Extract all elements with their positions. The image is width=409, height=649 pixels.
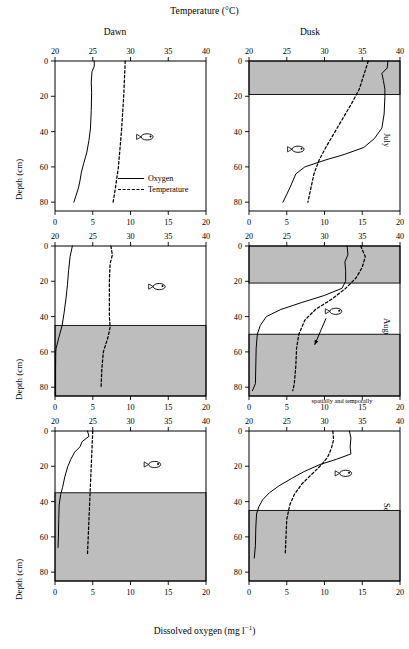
tick-label-oxygen: 15 bbox=[164, 403, 172, 412]
fish-icon bbox=[325, 308, 342, 314]
tick-label-depth: 20 bbox=[234, 462, 242, 471]
tick-label-temperature: 40 bbox=[396, 47, 404, 56]
tick-label-temperature: 30 bbox=[126, 47, 134, 56]
tick-label-temperature: 25 bbox=[283, 417, 291, 426]
tick-label-temperature: 25 bbox=[283, 47, 291, 56]
tick-label-oxygen: 0 bbox=[53, 588, 57, 597]
fish-tail-icon bbox=[137, 134, 142, 139]
tick-label-oxygen: 15 bbox=[358, 588, 366, 597]
tick-label-depth: 60 bbox=[234, 533, 242, 542]
fish-eye-icon bbox=[150, 135, 152, 137]
tick-label-oxygen: 0 bbox=[53, 218, 57, 227]
tick-label-oxygen: 15 bbox=[164, 588, 172, 597]
tick-label-depth: 0 bbox=[238, 57, 242, 66]
tick-label-depth: 0 bbox=[238, 242, 242, 251]
tick-label-depth: 40 bbox=[234, 313, 242, 322]
fish-icon bbox=[137, 134, 154, 140]
fish-tail-icon bbox=[325, 309, 330, 314]
tick-label-oxygen: 20 bbox=[202, 588, 210, 597]
tick-label-oxygen: 5 bbox=[91, 218, 95, 227]
tick-label-depth: 80 bbox=[234, 383, 242, 392]
tick-label-depth: 80 bbox=[234, 198, 242, 207]
fish-eye-icon bbox=[162, 285, 164, 287]
tick-label-oxygen: 5 bbox=[285, 588, 289, 597]
fish-eye-icon bbox=[338, 310, 340, 312]
plot-layer: 2025303540051015200204060802025303540051… bbox=[0, 0, 409, 649]
tick-label-depth: 0 bbox=[44, 57, 48, 66]
fish-icon bbox=[335, 470, 352, 476]
tick-label-oxygen: 10 bbox=[320, 588, 328, 597]
fish-icon bbox=[144, 461, 161, 467]
panel-july-dawn: 202530354005101520020406080 bbox=[40, 47, 210, 227]
panel-september-dusk: 202530354005101520020406080 bbox=[234, 417, 404, 597]
panel-july-dusk: 202530354005101520020406080 bbox=[234, 47, 404, 227]
tick-label-temperature: 20 bbox=[245, 232, 253, 241]
tick-label-oxygen: 20 bbox=[202, 403, 210, 412]
figure-root: Temperature (°C) Dawn Dusk Depth (cm) De… bbox=[0, 0, 409, 649]
tick-label-temperature: 35 bbox=[164, 417, 172, 426]
tick-label-temperature: 35 bbox=[164, 47, 172, 56]
tick-label-temperature: 20 bbox=[245, 417, 253, 426]
tick-label-temperature: 35 bbox=[358, 232, 366, 241]
tick-label-depth: 80 bbox=[40, 383, 48, 392]
fish-tail-icon bbox=[335, 471, 340, 476]
fish-icon bbox=[288, 146, 305, 152]
shaded-band-1 bbox=[249, 334, 400, 396]
tick-label-depth: 40 bbox=[234, 128, 242, 137]
tick-label-depth: 80 bbox=[234, 568, 242, 577]
tick-label-depth: 40 bbox=[40, 128, 48, 137]
tick-label-temperature: 20 bbox=[51, 47, 59, 56]
tick-label-oxygen: 15 bbox=[358, 218, 366, 227]
tick-label-oxygen: 10 bbox=[320, 218, 328, 227]
tick-label-oxygen: 10 bbox=[126, 218, 134, 227]
tick-label-temperature: 30 bbox=[126, 232, 134, 241]
shaded-band-0 bbox=[55, 493, 206, 581]
tick-label-oxygen: 0 bbox=[53, 403, 57, 412]
tick-label-depth: 0 bbox=[238, 427, 242, 436]
tick-label-oxygen: 20 bbox=[396, 218, 404, 227]
shaded-band-0 bbox=[55, 325, 206, 396]
tick-label-depth: 20 bbox=[234, 277, 242, 286]
tick-label-oxygen: 10 bbox=[126, 588, 134, 597]
fish-eye-icon bbox=[348, 472, 350, 474]
fish-eye-icon bbox=[300, 148, 302, 150]
tick-label-depth: 40 bbox=[234, 498, 242, 507]
tick-label-temperature: 40 bbox=[202, 417, 210, 426]
shaded-band-0 bbox=[249, 61, 400, 95]
tick-label-depth: 80 bbox=[40, 568, 48, 577]
tick-label-oxygen: 20 bbox=[396, 403, 404, 412]
tick-label-temperature: 40 bbox=[396, 417, 404, 426]
tick-label-temperature: 25 bbox=[283, 232, 291, 241]
tick-label-temperature: 40 bbox=[202, 47, 210, 56]
tick-label-oxygen: 0 bbox=[247, 218, 251, 227]
tick-label-temperature: 40 bbox=[202, 232, 210, 241]
tick-label-temperature: 25 bbox=[89, 232, 97, 241]
series-line-oxygen bbox=[74, 61, 94, 202]
tick-label-temperature: 25 bbox=[89, 417, 97, 426]
tick-label-temperature: 35 bbox=[358, 417, 366, 426]
tick-label-temperature: 35 bbox=[358, 47, 366, 56]
tick-label-depth: 40 bbox=[40, 313, 48, 322]
tick-label-temperature: 20 bbox=[245, 47, 253, 56]
tick-label-depth: 20 bbox=[40, 277, 48, 286]
tick-label-depth: 80 bbox=[40, 198, 48, 207]
panel-august-dusk: 202530354005101520020406080 bbox=[234, 232, 404, 412]
tick-label-oxygen: 5 bbox=[285, 403, 289, 412]
panel-september-dawn: 202530354005101520020406080 bbox=[40, 417, 210, 597]
tick-label-depth: 60 bbox=[40, 533, 48, 542]
tick-label-oxygen: 5 bbox=[91, 588, 95, 597]
tick-label-oxygen: 0 bbox=[247, 403, 251, 412]
tick-label-depth: 0 bbox=[44, 427, 48, 436]
tick-label-temperature: 30 bbox=[320, 417, 328, 426]
tick-label-depth: 60 bbox=[234, 348, 242, 357]
tick-label-depth: 60 bbox=[234, 163, 242, 172]
tick-label-oxygen: 0 bbox=[247, 588, 251, 597]
tick-label-depth: 20 bbox=[40, 462, 48, 471]
fish-tail-icon bbox=[288, 147, 293, 152]
tick-label-temperature: 40 bbox=[396, 232, 404, 241]
tick-label-depth: 20 bbox=[40, 92, 48, 101]
tick-label-depth: 40 bbox=[40, 498, 48, 507]
tick-label-oxygen: 5 bbox=[285, 218, 289, 227]
tick-label-depth: 20 bbox=[234, 92, 242, 101]
tick-label-depth: 0 bbox=[44, 242, 48, 251]
